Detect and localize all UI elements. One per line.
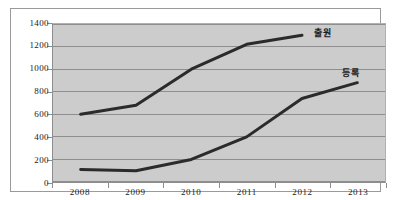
y-axis-labels: 1400 1200 1000 800 600 400 200 0: [13, 23, 49, 183]
series-label-chulwon: 출원: [314, 26, 332, 39]
y-tick-label: 1000: [15, 64, 49, 73]
x-tick-label: 2008: [53, 187, 107, 197]
y-tick-label: 200: [15, 156, 49, 165]
x-tick-label: 2012: [276, 187, 330, 197]
y-tick-label: 0: [15, 179, 49, 188]
x-tick-label: 2013: [331, 187, 385, 197]
plot-area: [52, 23, 386, 183]
y-tick-label: 1200: [15, 41, 49, 50]
figure-frame: 1400 1200 1000 800 600 400 200 0 2008 20…: [10, 8, 381, 192]
x-tick-label: 2010: [164, 187, 218, 197]
series-lines: [53, 24, 385, 182]
series-label-deungrok: 등록: [342, 66, 360, 79]
y-tick-label: 600: [15, 110, 49, 119]
x-tick-label: 2009: [109, 187, 163, 197]
y-tick-label: 800: [15, 87, 49, 96]
y-tick-label: 400: [15, 133, 49, 142]
x-tick-label: 2011: [220, 187, 274, 197]
line-chart: 1400 1200 1000 800 600 400 200 0 2008 20…: [0, 0, 393, 200]
y-tick-label: 1400: [15, 19, 49, 28]
x-axis-labels: 2008 2009 2010 2011 2012 2013: [52, 187, 386, 200]
